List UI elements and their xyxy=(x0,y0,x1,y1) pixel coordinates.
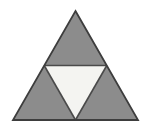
triangle-diagram xyxy=(0,0,151,132)
top-triangle xyxy=(44,11,107,66)
figure-canvas: Subdivided equilateral triangle An outer… xyxy=(0,0,151,132)
